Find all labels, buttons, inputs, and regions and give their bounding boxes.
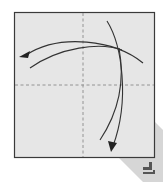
origami-diagram	[0, 0, 163, 182]
